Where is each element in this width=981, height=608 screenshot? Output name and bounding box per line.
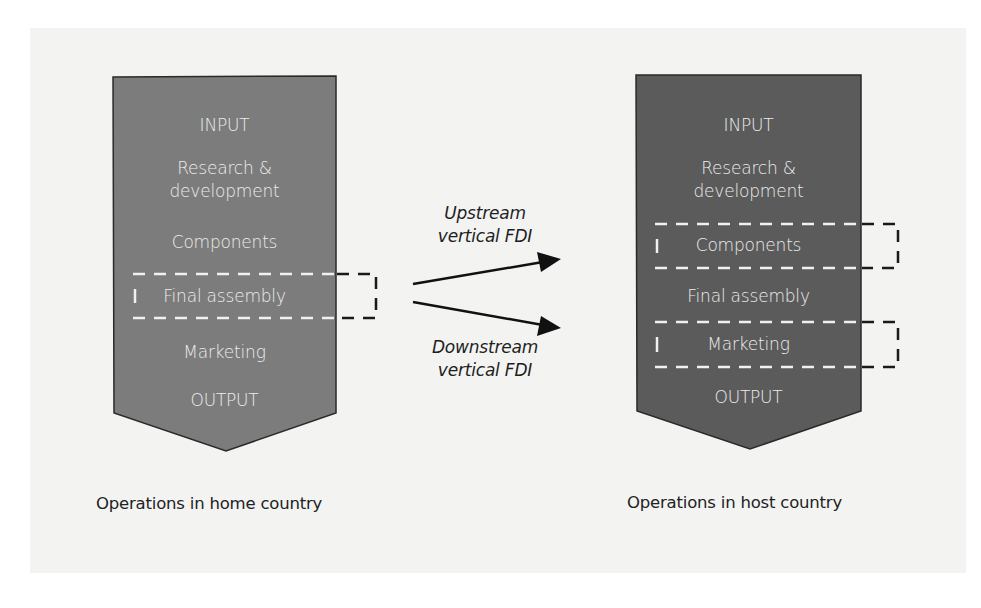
host-stage-output: OUTPUT (636, 386, 861, 408)
upstream-arrow (413, 252, 561, 284)
upstream-label-line1: Upstream (405, 202, 565, 224)
host-stage-marketing: Marketing (636, 333, 861, 355)
host-stage-components: Components (636, 234, 861, 256)
home-stage-input: INPUT (113, 114, 336, 136)
host-stage-input: INPUT (636, 114, 861, 136)
home-stage-components: Components (113, 231, 336, 253)
home-stage-output: OUTPUT (113, 389, 336, 411)
downstream-label-line2: vertical FDI (405, 359, 565, 381)
host-stage-rd-line2: development (636, 180, 861, 202)
host-stage-rd-line1: Research & (636, 157, 861, 179)
upstream-label-line2: vertical FDI (405, 225, 565, 247)
downstream-arrow (413, 302, 561, 336)
home-stage-marketing: Marketing (113, 341, 336, 363)
host-stage-final-assembly: Final assembly (636, 285, 861, 307)
home-stage-final-assembly: Final assembly (113, 285, 336, 307)
home-stage-rd-line1: Research & (113, 157, 336, 179)
host-country-caption: Operations in host country (627, 492, 842, 514)
home-stage-rd-line2: development (113, 180, 336, 202)
downstream-label-line1: Downstream (405, 336, 565, 358)
home-country-caption: Operations in home country (96, 493, 322, 515)
